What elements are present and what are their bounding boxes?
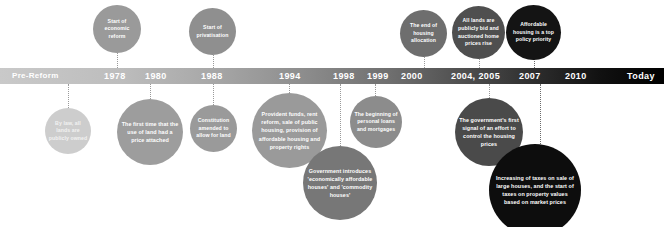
event-bubble-1998-label: Government introduces 'economically affo… xyxy=(306,167,374,199)
event-bubble-2000-label: The end of housing allocation xyxy=(402,22,445,45)
event-bubble-2004-2005-above-label: All lands are publicly bid and auctioned… xyxy=(454,17,503,47)
event-bubble-1999-label: The beginning of personal loans and mort… xyxy=(352,111,400,134)
axis-label-pre-reform: Pre-Reform xyxy=(12,69,59,83)
event-bubble-1980-label: The first time that the use of land had … xyxy=(120,120,181,144)
connector-stem-2010 xyxy=(540,84,541,144)
axis-tick-2007: 2007 xyxy=(519,69,541,83)
connector-stem-pre-reform xyxy=(68,84,69,108)
event-bubble-1999[interactable]: The beginning of personal loans and mort… xyxy=(350,96,402,148)
event-bubble-pre-reform[interactable]: By law, all lands are publicly owned xyxy=(45,108,91,154)
event-bubble-2010[interactable]: Increasing of taxes on sale of large hou… xyxy=(489,144,581,227)
axis-tick-1988: 1988 xyxy=(201,69,223,83)
event-bubble-2004-2005-below-label: The government's first signal of an effo… xyxy=(458,116,521,148)
event-bubble-1988-below[interactable]: Constitution amended to allow for land xyxy=(190,105,237,152)
axis-tick-2004-2005: 2004, 2005 xyxy=(451,69,500,83)
axis-tick-1994: 1994 xyxy=(279,69,301,83)
connector-stem-1988-below xyxy=(213,84,214,105)
connector-stem-1980 xyxy=(150,84,151,99)
axis-tick-1999: 1999 xyxy=(367,69,389,83)
axis-tick-1978: 1978 xyxy=(104,69,126,83)
axis-tick-2000: 2000 xyxy=(401,69,423,83)
event-bubble-2000[interactable]: The end of housing allocation xyxy=(400,10,447,57)
connector-stem-1994 xyxy=(289,84,290,93)
event-bubble-1988-below-label: Constitution amended to allow for land xyxy=(192,117,235,140)
axis-tick-1998: 1998 xyxy=(333,69,355,83)
event-bubble-2004-2005-above[interactable]: All lands are publicly bid and auctioned… xyxy=(452,6,505,59)
timeline-infographic: Start of economic reform Start of privat… xyxy=(0,0,664,227)
event-bubble-2007[interactable]: Affordable housing is a top policy prior… xyxy=(506,5,561,60)
event-bubble-1988-above[interactable]: Start of privatisation xyxy=(189,8,236,55)
event-bubble-1978-label: Start of economic reform xyxy=(95,18,139,41)
axis-label-today: Today xyxy=(627,69,655,83)
connector-stem-1998 xyxy=(340,84,341,146)
event-bubble-1980[interactable]: The first time that the use of land had … xyxy=(117,99,183,165)
event-bubble-2010-label: Increasing of taxes on sale of large hou… xyxy=(493,174,578,206)
connector-stem-1999 xyxy=(375,84,376,96)
axis-tick-2010: 2010 xyxy=(565,69,587,83)
event-bubble-1988-above-label: Start of privatisation xyxy=(191,24,234,39)
event-bubble-1978[interactable]: Start of economic reform xyxy=(93,5,141,53)
axis-tick-1980: 1980 xyxy=(145,69,167,83)
event-bubble-2007-label: Affordable housing is a top policy prior… xyxy=(508,21,559,44)
event-bubble-pre-reform-label: By law, all lands are publicly owned xyxy=(47,120,89,143)
event-bubble-1998[interactable]: Government introduces 'economically affo… xyxy=(303,146,377,220)
connector-stem-2004-2005-below xyxy=(489,84,490,98)
event-bubble-1994-label: Provident funds, rent reform, sale of pu… xyxy=(255,110,324,151)
